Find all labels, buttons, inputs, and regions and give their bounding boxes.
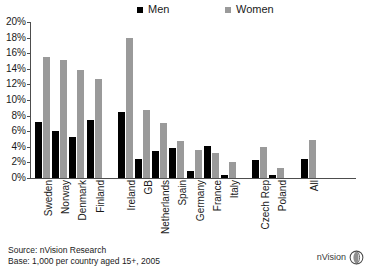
legend-label-men: Men xyxy=(148,4,169,15)
footnote-base: Base: 1,000 per country aged 15+, 2005 xyxy=(8,256,160,267)
bar-group xyxy=(68,22,83,178)
x-axis-label: GB xyxy=(144,180,154,194)
bar-men xyxy=(87,120,94,179)
legend-label-women: Women xyxy=(236,4,274,15)
y-axis-tick-mark xyxy=(27,178,30,179)
legend-entry-women: Women xyxy=(225,4,274,15)
bar-men xyxy=(169,148,176,178)
y-axis-tick-mark xyxy=(27,100,30,101)
bar-women xyxy=(212,153,219,178)
x-axis-category-labels: SwedenNorwayDenmarkFinlandIrelandGBNethe… xyxy=(31,180,356,235)
bar-group xyxy=(151,22,166,178)
x-axis-label: All xyxy=(310,180,320,191)
y-axis-tick-label: 20% xyxy=(0,17,26,27)
bar-women xyxy=(77,70,84,178)
y-axis-tick-label: 10% xyxy=(0,95,26,105)
chart-legend: Men Women xyxy=(0,2,372,20)
x-axis-label: Spain xyxy=(178,180,188,206)
footnote-source: Source: nVision Research xyxy=(8,245,160,256)
bar-group xyxy=(268,22,283,178)
y-axis-tick-label: 16% xyxy=(0,48,26,58)
bar-group xyxy=(203,22,218,178)
y-axis-tick-label: 6% xyxy=(0,126,26,136)
bar-men xyxy=(252,160,259,178)
bar-men xyxy=(69,137,76,178)
bar-group xyxy=(186,22,201,178)
bar-men xyxy=(152,151,159,178)
x-axis-label: Germany xyxy=(196,180,206,221)
y-axis-tick-label: 4% xyxy=(0,142,26,152)
y-axis-tick-mark xyxy=(27,53,30,54)
bar-men xyxy=(187,171,194,178)
bar-men xyxy=(204,146,211,178)
bar-women xyxy=(177,141,184,178)
logo-text: nVision xyxy=(317,253,346,262)
nvision-logo: nVision xyxy=(317,250,364,265)
y-axis-tick-mark xyxy=(27,131,30,132)
bar-group xyxy=(168,22,183,178)
bar-women xyxy=(195,150,202,178)
bar-women xyxy=(229,162,236,178)
bar-group xyxy=(220,22,235,178)
x-axis-label: Italy xyxy=(230,180,240,198)
y-axis-tick-mark xyxy=(27,69,30,70)
y-axis-tick-label: 2% xyxy=(0,157,26,167)
x-axis-label: Poland xyxy=(278,180,288,211)
y-axis-tick-label: 12% xyxy=(0,79,26,89)
x-axis-label: Norway xyxy=(61,180,71,214)
y-axis-tick-label: 8% xyxy=(0,111,26,121)
x-axis-label: Ireland xyxy=(127,180,137,211)
bar-women xyxy=(143,110,150,178)
bar-men xyxy=(118,112,125,178)
bar-men xyxy=(269,175,276,178)
chart-footnote: Source: nVision Research Base: 1,000 per… xyxy=(8,245,160,267)
bar-women xyxy=(60,60,67,178)
y-axis-tick-label: 0% xyxy=(0,173,26,183)
bar-women xyxy=(260,147,267,178)
bar-group xyxy=(34,22,49,178)
bar-group xyxy=(86,22,101,178)
bar-group xyxy=(251,22,266,178)
y-axis-tick-label: 18% xyxy=(0,33,26,43)
x-axis-label: Denmark xyxy=(78,180,88,221)
bar-women xyxy=(126,38,133,178)
bar-women xyxy=(160,123,167,178)
bar-group xyxy=(300,22,315,178)
y-axis-tick-mark xyxy=(27,147,30,148)
bar-men xyxy=(221,175,228,178)
y-axis-tick-label: 14% xyxy=(0,64,26,74)
x-axis-label: Czech Rep xyxy=(261,180,271,229)
sphere-globe-icon xyxy=(349,250,364,265)
bar-men xyxy=(52,131,59,178)
legend-entry-men: Men xyxy=(137,4,169,15)
bar-women xyxy=(277,168,284,178)
legend-swatch-men-icon xyxy=(137,7,143,13)
y-axis-tick-mark xyxy=(27,84,30,85)
bar-men xyxy=(35,122,42,178)
x-axis-label: France xyxy=(213,180,223,211)
x-axis-label: Sweden xyxy=(44,180,54,216)
x-axis-label: Finland xyxy=(96,180,106,213)
bar-men xyxy=(301,159,308,178)
y-axis-tick-mark xyxy=(27,162,30,163)
y-axis-tick-mark xyxy=(27,22,30,23)
bar-women xyxy=(43,57,50,178)
bar-men xyxy=(135,159,142,178)
bar-women xyxy=(95,79,102,178)
bar-group xyxy=(51,22,66,178)
chart-plot-area: 0%2%4%6%8%10%12%14%16%18%20% xyxy=(30,22,356,178)
y-axis-tick-mark xyxy=(27,116,30,117)
bar-group xyxy=(117,22,132,178)
legend-swatch-women-icon xyxy=(225,7,231,13)
bar-group xyxy=(134,22,149,178)
y-axis-tick-mark xyxy=(27,38,30,39)
bar-women xyxy=(309,140,316,178)
x-axis-label: Netherlands xyxy=(161,180,171,234)
bar-groups xyxy=(31,22,356,178)
